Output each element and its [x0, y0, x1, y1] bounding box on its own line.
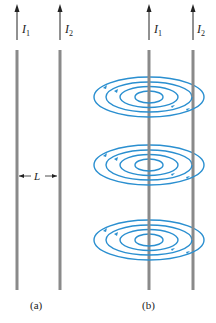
field-arrow-icon [171, 105, 175, 108]
current-arrow-i1-a [15, 4, 20, 40]
wire-1-b [148, 50, 151, 290]
current-label-i2-b: I2 [196, 22, 205, 38]
panel-a: I1 I2 L (a) [15, 4, 74, 312]
caption-b: (b) [142, 299, 155, 312]
separation-label: L [33, 170, 40, 182]
arrowhead-icon [147, 4, 152, 12]
field-arrow-icon [114, 89, 118, 93]
wire-2-b [192, 50, 195, 290]
dimension-arrow-left-icon [19, 174, 24, 178]
current-label-i1-b: I1 [153, 22, 162, 38]
current-arrow-i2-b [191, 4, 196, 40]
dimension-arrow-right-icon [52, 174, 57, 178]
arrowhead-icon [58, 4, 63, 12]
field-arrow-icon [171, 173, 175, 176]
caption-a: (a) [30, 299, 43, 312]
current-arrow-i1-b [147, 4, 152, 40]
arrowhead-icon [15, 4, 20, 12]
current-label-i1-a: I1 [21, 22, 30, 38]
arrowhead-icon [191, 4, 196, 12]
diagram-canvas: I1 I2 L (a) I1 I2 [0, 0, 216, 323]
field-arrow-icon [114, 232, 118, 236]
separation-dimension: L [19, 170, 57, 182]
panel-b: I1 I2 [94, 4, 205, 312]
field-arrow-icon [171, 248, 175, 251]
current-arrow-i2-a [58, 4, 63, 40]
current-label-i2-a: I2 [64, 22, 73, 38]
wire-1-a [16, 50, 19, 290]
field-arrow-icon [114, 157, 118, 161]
wire-2-a [59, 50, 62, 290]
